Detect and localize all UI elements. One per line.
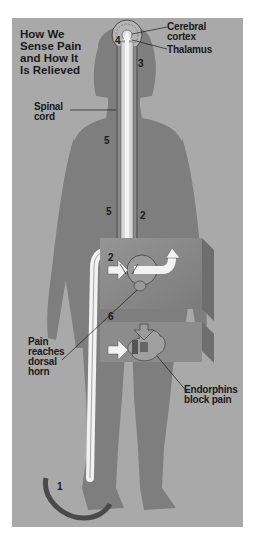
label-pain-reaches-dorsal-horn: Pain reaches dorsal horn — [28, 337, 64, 377]
box-endorphins — [100, 322, 214, 363]
body-illustration — [12, 18, 243, 527]
title-line: How We — [20, 28, 100, 40]
diagram-frame — [12, 18, 243, 527]
step-5-dorsal: 5 — [106, 207, 112, 217]
spinal-cord — [116, 32, 138, 272]
label-spinal-cord: Spinal cord — [34, 102, 63, 122]
title-line: Sense Pain — [20, 40, 100, 52]
step-3-thalamus: 3 — [138, 59, 144, 69]
title-line: Is Relieved — [20, 64, 100, 76]
label-cerebral-cortex: Cerebral cortex — [167, 22, 206, 42]
diagram-title: How We Sense Pain and How It Is Relieved — [20, 28, 100, 76]
step-6-box: 6 — [108, 312, 114, 322]
step-5-spinal: 5 — [104, 136, 110, 146]
title-line: and How It — [20, 52, 100, 64]
step-1-foot: 1 — [57, 482, 63, 492]
step-2-box: 2 — [108, 253, 114, 263]
label-thalamus: Thalamus — [167, 45, 212, 55]
label-endorphins-block-pain: Endorphins block pain — [184, 385, 238, 405]
step-2-dorsal: 2 — [140, 211, 146, 221]
step-4-brain: 4 — [115, 36, 121, 46]
